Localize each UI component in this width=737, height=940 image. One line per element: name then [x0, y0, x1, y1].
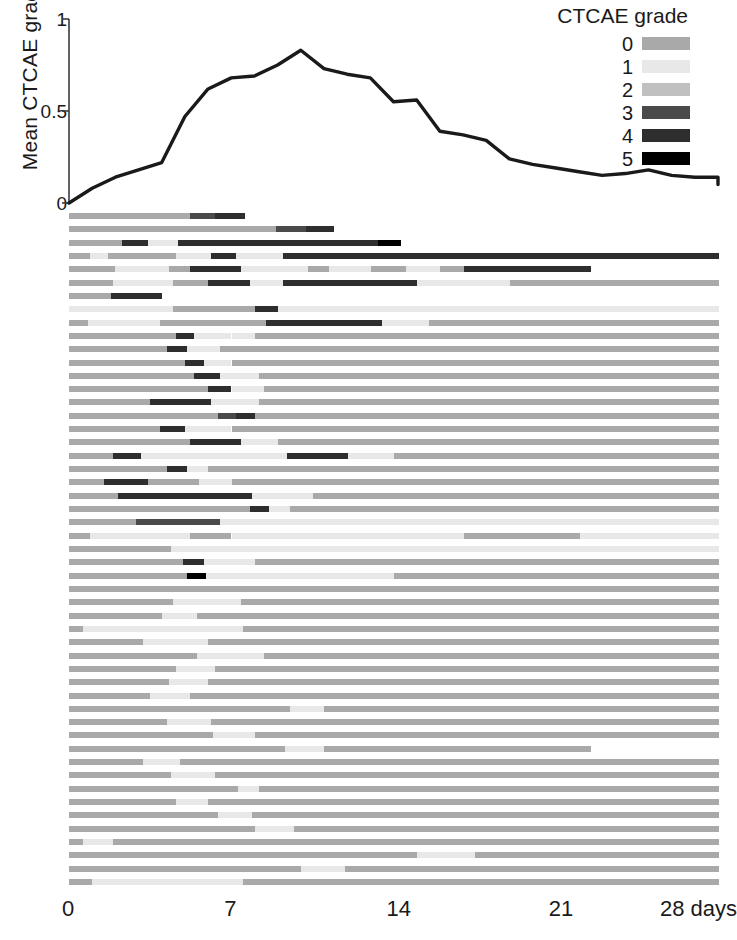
heatmap-segment-grade-0	[241, 599, 719, 605]
heatmap-segment-grade-0	[69, 399, 150, 405]
heatmap-segment-grade-0	[69, 226, 276, 232]
heatmap-segment-grade-0	[290, 506, 719, 512]
heatmap-row	[69, 519, 719, 525]
heatmap-segment-grade-0	[148, 479, 199, 485]
heatmap-segment-grade-0	[173, 280, 208, 286]
heatmap-segment-grade-4	[183, 559, 204, 565]
heatmap-segment-grade-1	[206, 573, 266, 579]
heatmap-segment-grade-0	[160, 320, 267, 326]
heatmap-segment-grade-0	[290, 786, 719, 792]
heatmap-row	[69, 586, 719, 592]
heatmap-segment-grade-0	[232, 479, 720, 485]
heatmap-segment-grade-0	[252, 812, 719, 818]
heatmap-segment-grade-0	[69, 519, 136, 525]
heatmap-segment-grade-1	[232, 533, 464, 539]
heatmap-segment-grade-0	[69, 599, 173, 605]
heatmap-segment-grade-4	[190, 266, 241, 272]
heatmap-segment-grade-1	[464, 280, 510, 286]
heatmap-segment-grade-4	[208, 280, 250, 286]
heatmap-segment-grade-1	[143, 639, 208, 645]
heatmap-segment-grade-4	[255, 306, 278, 312]
heatmap-segment-grade-0	[169, 266, 190, 272]
heatmap-segment-grade-0	[259, 399, 719, 405]
heatmap-segment-grade-4	[150, 399, 210, 405]
heatmap-segment-grade-1	[141, 453, 178, 459]
heatmap-segment-grade-0	[324, 746, 591, 752]
heatmap-row	[69, 866, 719, 872]
heatmap-segment-grade-4	[160, 426, 186, 432]
heatmap-segment-grade-0	[69, 573, 187, 579]
heatmap-segment-grade-0	[475, 852, 719, 858]
heatmap-segment-grade-0	[243, 879, 719, 885]
heatmap-row	[69, 772, 719, 778]
legend-entry-2: 2	[494, 78, 690, 101]
heatmap-segment-grade-1	[241, 439, 278, 445]
heatmap-segment-grade-1	[197, 653, 264, 659]
heatmap-row	[69, 266, 719, 272]
heatmap-segment-grade-0	[69, 546, 171, 552]
heatmap-segment-grade-0	[69, 732, 213, 738]
legend-entry-swatch	[642, 106, 690, 119]
heatmap-segment-grade-1	[406, 266, 441, 272]
heatmap-row	[69, 693, 719, 699]
heatmap-segment-grade-0	[69, 413, 218, 419]
heatmap-segment-grade-4	[194, 373, 220, 379]
heatmap-segment-grade-3	[190, 213, 216, 219]
heatmap-row	[69, 719, 719, 725]
heatmap-segment-grade-1	[204, 360, 232, 366]
heatmap-row	[69, 812, 719, 818]
heatmap-segment-grade-1	[232, 333, 255, 339]
heatmap-segment-grade-1	[269, 506, 290, 512]
heatmap-segment-grade-1	[301, 866, 345, 872]
heatmap-segment-grade-0	[69, 759, 143, 765]
legend-entry-label: 3	[622, 103, 633, 123]
heatmap-row	[69, 839, 719, 845]
heatmap-segment-grade-0	[69, 426, 160, 432]
legend-entry-label: 5	[622, 149, 633, 169]
heatmap-segment-grade-1	[204, 559, 255, 565]
x-axis: 07142128 days	[0, 896, 724, 936]
heatmap-segment-grade-0	[69, 373, 194, 379]
heatmap-row	[69, 493, 719, 499]
legend-entry-3: 3	[494, 101, 690, 124]
heatmap-segment-grade-4	[167, 346, 188, 352]
heatmap-segment-grade-0	[69, 533, 90, 539]
heatmap-row	[69, 346, 719, 352]
heatmap-row	[69, 613, 719, 619]
heatmap-segment-grade-0	[69, 439, 190, 445]
heatmap-segment-grade-0	[69, 506, 250, 512]
heatmap-segment-grade-1	[236, 253, 259, 259]
heatmap-segment-grade-1	[171, 546, 208, 552]
heatmap-segment-grade-0	[69, 213, 190, 219]
heatmap-segment-grade-0	[69, 453, 113, 459]
heatmap-segment-grade-1	[187, 346, 220, 352]
heatmap-segment-grade-1	[241, 266, 308, 272]
heatmap-segment-grade-0	[69, 586, 719, 592]
heatmap-segment-grade-0	[69, 266, 115, 272]
heatmap-segment-grade-1	[285, 746, 324, 752]
heatmap-segment-grade-1	[208, 546, 719, 552]
heatmap-segment-grade-1	[83, 626, 213, 632]
heatmap-segment-grade-0	[69, 706, 290, 712]
heatmap-segment-grade-0	[243, 626, 719, 632]
legend-entry-swatch	[642, 129, 690, 142]
heatmap-segment-grade-0	[69, 786, 238, 792]
heatmap-segment-grade-1	[213, 626, 243, 632]
heatmap-segment-grade-1	[176, 666, 215, 672]
heatmap-segment-grade-1	[213, 732, 255, 738]
x-axis-tick-7: 7	[224, 896, 236, 922]
heatmap-segment-grade-0	[220, 346, 719, 352]
heatmap-row	[69, 373, 719, 379]
heatmap-segment-grade-0	[69, 479, 104, 485]
heatmap-row	[69, 852, 719, 858]
heatmap-segment-grade-1	[290, 706, 325, 712]
heatmap-segment-grade-0	[190, 693, 719, 699]
heatmap-segment-grade-0	[69, 746, 285, 752]
heatmap-segment-grade-0	[113, 839, 148, 845]
heatmap-row	[69, 280, 719, 286]
heatmap-segment-grade-0	[108, 253, 175, 259]
heatmap-row	[69, 533, 719, 539]
heatmap-segment-grade-4	[185, 360, 204, 366]
heatmap-segment-grade-1	[278, 306, 301, 312]
heatmap-segment-grade-0	[208, 679, 719, 685]
